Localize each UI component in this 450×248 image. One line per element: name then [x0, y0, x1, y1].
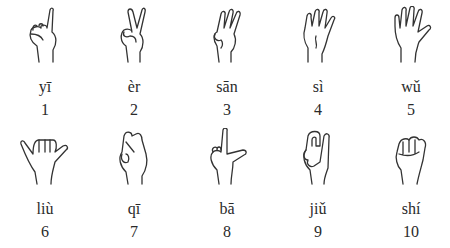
pinyin-label: wǔ: [371, 78, 450, 96]
pinyin-label: yī: [5, 78, 85, 96]
hand-five-icon: [383, 6, 439, 64]
hand-three-icon: [199, 6, 255, 64]
pinyin-label: jiǔ: [278, 200, 358, 218]
pinyin-label: liù: [5, 200, 85, 218]
sign-cell-1: yī 1: [5, 6, 85, 119]
pinyin-label: sān: [187, 78, 267, 96]
number-label: 4: [278, 101, 358, 119]
pinyin-label: bā: [187, 200, 267, 218]
hand-four-icon: [290, 6, 346, 64]
sign-cell-2: èr 2: [94, 6, 174, 119]
number-label: 6: [5, 223, 85, 241]
hand-eight-icon: [199, 128, 255, 186]
hand-nine-icon: [290, 128, 346, 186]
hand-ten-fist-icon: [383, 128, 439, 186]
sign-cell-10: shí 10: [371, 128, 450, 241]
number-label: 2: [94, 101, 174, 119]
number-label: 10: [371, 223, 450, 241]
sign-cell-6: liù 6: [5, 128, 85, 241]
sign-cell-8: bā 8: [187, 128, 267, 241]
sign-cell-5: wǔ 5: [371, 6, 450, 119]
number-label: 1: [5, 101, 85, 119]
sign-cell-7: qī 7: [94, 128, 174, 241]
sign-cell-4: sì 4: [278, 6, 358, 119]
hand-seven-icon: [106, 128, 162, 186]
hand-six-icon: [17, 128, 73, 186]
pinyin-label: sì: [278, 78, 358, 96]
number-label: 9: [278, 223, 358, 241]
pinyin-label: shí: [371, 200, 450, 218]
pinyin-label: èr: [94, 78, 174, 96]
hand-one-icon: [17, 6, 73, 64]
pinyin-label: qī: [94, 200, 174, 218]
number-label: 5: [371, 101, 450, 119]
hand-two-icon: [106, 6, 162, 64]
number-label: 8: [187, 223, 267, 241]
sign-cell-3: sān 3: [187, 6, 267, 119]
sign-cell-9: jiǔ 9: [278, 128, 358, 241]
number-label: 7: [94, 223, 174, 241]
number-label: 3: [187, 101, 267, 119]
